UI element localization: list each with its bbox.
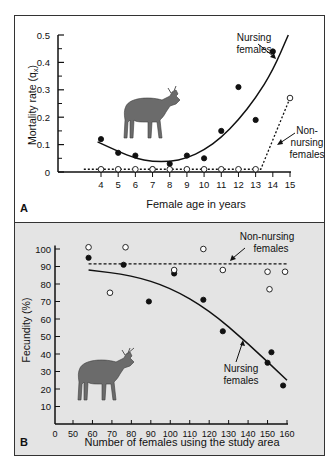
panel-a-point-nursing	[133, 153, 138, 158]
panel-a-x-tick-label: 6	[133, 179, 138, 190]
panel-a-y-axis-title-main: Mortality rate (q	[26, 72, 38, 145]
panel-a-frame	[15, 16, 325, 223]
panel-b-point-nursing	[201, 297, 206, 302]
panel-a-point-non-nursing	[218, 166, 224, 172]
panel-a-point-nursing	[184, 153, 189, 158]
panel-b-y-tick-label: 70	[40, 296, 51, 307]
panel-b-y-tick-label: 10	[40, 401, 51, 412]
annotation-a-nursing-line2: females	[236, 44, 271, 55]
panel-b-y-tick-label: 20	[40, 384, 51, 395]
panel-a-point-non-nursing	[201, 166, 207, 172]
panel-b-x-tick-label: 0	[52, 429, 57, 439]
panel-b-point-non-nursing	[107, 290, 113, 296]
panel-b-point-nursing	[220, 329, 225, 334]
panel-a-point-nursing	[236, 84, 241, 89]
panel-a-point-nursing	[253, 117, 258, 122]
panel-b-point-non-nursing	[282, 269, 288, 275]
annotation-a-non-line2: nursing	[291, 137, 324, 148]
panel-b-y-tick-label: 50	[40, 331, 51, 342]
panel-a-x-tick-label: 12	[233, 179, 244, 190]
panel-a-point-nursing	[219, 128, 224, 133]
panel-b-y-tick-label: 100	[35, 244, 51, 255]
annotation-b-nursing-line2: females	[223, 375, 258, 386]
panel-a-x-tick-label: 11	[216, 179, 226, 190]
panel-b-y-axis-title: Fecundity (%)	[20, 298, 32, 363]
annotation-b-non-line1: Non-nursing	[240, 231, 294, 242]
panel-b-x-tick-label: 50	[68, 429, 78, 439]
panel-b-point-non-nursing	[171, 267, 177, 273]
panel-a-x-tick-label: 10	[199, 179, 210, 190]
panel-a-y-tick-label: 0.4	[37, 57, 50, 68]
panel-b-point-nursing	[265, 360, 270, 365]
panel-a-x-tick-label: 8	[167, 179, 172, 190]
annotation-b-non-line2: females	[253, 243, 288, 254]
panel-a-point-non-nursing	[150, 166, 156, 172]
panel-a-point-non-nursing	[167, 166, 173, 172]
panel-a-point-non-nursing	[133, 166, 139, 172]
panel-b-frame	[15, 223, 325, 456]
panel-b-point-nursing	[281, 383, 286, 388]
panel-b-point-non-nursing	[201, 246, 207, 252]
panel-a-point-non-nursing	[184, 166, 190, 172]
panel-a-y-tick-label: 0.5	[37, 30, 50, 41]
panel-a-label: A	[20, 202, 28, 214]
panel-a-x-axis-title: Female age in years	[146, 198, 246, 210]
panel-a-point-non-nursing	[115, 166, 121, 172]
panel-b-point-nursing	[86, 255, 91, 260]
panel-b-point-nursing	[121, 262, 126, 267]
panel-b-y-tick-label: 60	[40, 314, 51, 325]
panel-b-y-tick-label: 80	[40, 279, 51, 290]
panel-a-y-tick-label: 0.1	[37, 139, 50, 150]
panel-a-x-tick-label: 7	[150, 179, 155, 190]
panel-b-y-tick-label: 90	[40, 261, 51, 272]
panel-b-point-nursing	[146, 299, 151, 304]
panel-a-x-tick-label: 15	[285, 179, 296, 190]
figure: 00.10.20.30.40.5456789101112131415 10203…	[0, 0, 335, 475]
panel-a-x-tick-label: 9	[184, 179, 189, 190]
panel-a-x-tick-label: 4	[98, 179, 103, 190]
panel-b-y-tick-label: 40	[40, 349, 51, 360]
panel-b-label: B	[20, 436, 28, 448]
panel-a-y-axis-title: Mortality rate (qx)	[26, 65, 40, 145]
panel-b-x-axis-title: Number of females using the study area	[84, 436, 280, 448]
panel-a-y-tick-label: 0.3	[37, 84, 50, 95]
panel-a-point-non-nursing	[253, 166, 259, 172]
panel-a-point-nursing	[201, 156, 206, 161]
panel-a-y-tick-label: 0.2	[37, 112, 50, 123]
panel-a-y-tick-label: 0	[45, 167, 50, 178]
panel-a-x-tick-label: 13	[250, 179, 261, 190]
panel-a-point-nursing	[98, 137, 103, 142]
annotation-a-non-line3: females	[289, 149, 324, 160]
panel-a-x-tick-label: 5	[116, 179, 121, 190]
panel-b-point-non-nursing	[267, 286, 273, 292]
annotation-a-non-line1: Non-	[296, 125, 318, 136]
panel-b-x-tick-label: 160	[279, 429, 294, 439]
panel-b-point-non-nursing	[220, 267, 226, 273]
panel-b-point-non-nursing	[265, 269, 271, 275]
panel-a-point-nursing	[116, 150, 121, 155]
annotation-a-nursing-line1: Nursing	[237, 32, 271, 43]
panel-b-point-non-nursing	[123, 244, 129, 250]
panel-a-point-non-nursing	[287, 95, 293, 101]
annotation-b-nursing-line1: Nursing	[224, 363, 258, 374]
panel-a-y-axis-title-close: )	[26, 65, 38, 69]
panel-a-point-nursing	[167, 161, 172, 166]
panel-a-x-tick-label: 14	[268, 179, 279, 190]
panel-b-point-nursing	[269, 350, 274, 355]
panel-a-point-non-nursing	[98, 166, 104, 172]
panel-a-point-non-nursing	[236, 166, 242, 172]
panel-b-point-non-nursing	[86, 244, 92, 250]
panel-b-y-tick-label: 30	[40, 366, 51, 377]
